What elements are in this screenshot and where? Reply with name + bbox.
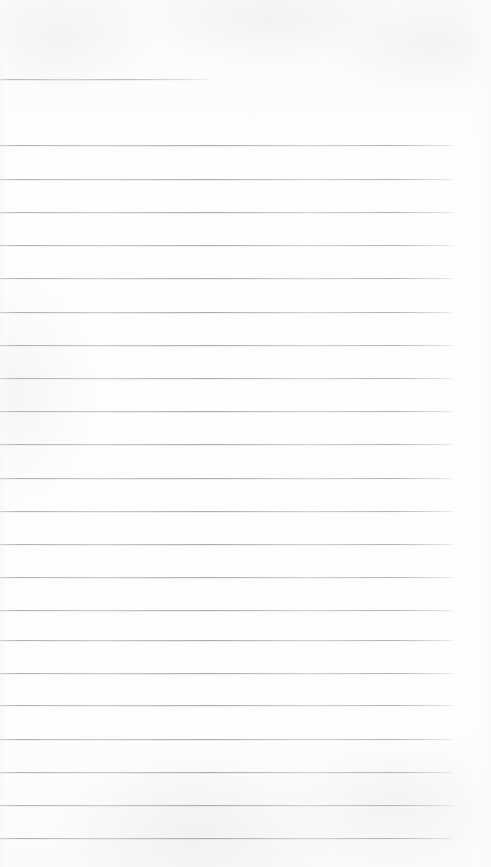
left-edge-scan-shadow xyxy=(0,0,9,867)
ruled-line xyxy=(0,312,455,313)
scanned-page xyxy=(0,0,491,867)
ruled-line xyxy=(0,444,455,445)
ruled-line xyxy=(0,610,455,611)
ruled-line xyxy=(0,673,455,674)
ruled-line xyxy=(0,805,455,806)
ruled-line xyxy=(0,739,455,740)
ruled-line xyxy=(0,838,455,839)
ruled-line xyxy=(0,705,455,706)
ruled-line xyxy=(0,79,211,80)
ruled-line xyxy=(0,772,455,773)
ruled-line xyxy=(0,478,455,479)
ruled-line xyxy=(0,345,455,346)
ruled-line xyxy=(0,245,455,246)
ruled-line xyxy=(0,378,455,379)
ruled-line xyxy=(0,640,455,641)
ruled-line xyxy=(0,411,455,412)
ruled-line xyxy=(0,577,455,578)
ruled-line xyxy=(0,278,455,279)
ruled-line xyxy=(0,145,455,146)
ruled-line xyxy=(0,212,455,213)
right-edge-scan-shadow xyxy=(467,0,491,867)
ruled-line xyxy=(0,511,455,512)
paper-texture-overlay xyxy=(0,0,491,867)
ruled-line xyxy=(0,179,455,180)
ruled-line xyxy=(0,544,455,545)
